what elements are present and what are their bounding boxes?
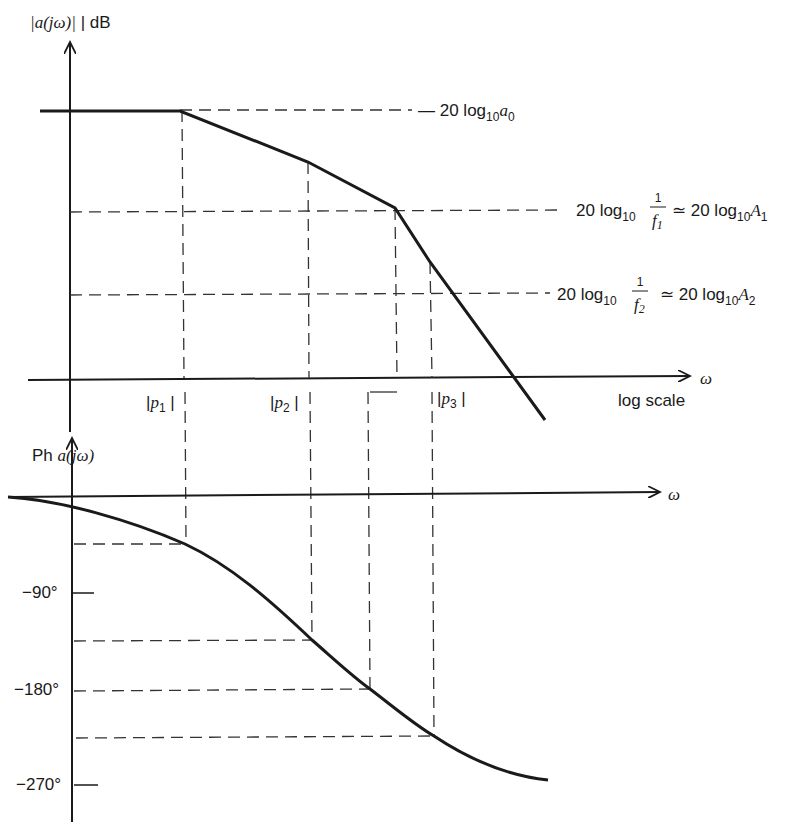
omega-label-phase: ω [668, 485, 680, 504]
log-scale-label: log scale [618, 391, 685, 410]
A2-level-label: 20 log10 1 f2 ≃ 20 log10A2 [557, 275, 756, 316]
svg-text:≃ 20 log10A2: ≃ 20 log10A2 [660, 285, 756, 308]
svg-text:≃ 20 log10A1: ≃ 20 log10A1 [672, 201, 768, 224]
magnitude-curve [40, 111, 545, 420]
svg-text:1: 1 [655, 191, 662, 205]
p2-label: |p2 | [270, 393, 299, 415]
omega-label-magnitude: ω [700, 369, 712, 388]
svg-text:20 log10: 20 log10 [557, 285, 617, 308]
tick-label-minus-180: −180° [14, 680, 59, 699]
A1-level-label: 20 log10 1 f1 ≃ 20 log10A1 [576, 191, 768, 232]
phase-x-axis [8, 492, 660, 497]
phase-y-label: Ph a(jω) [32, 446, 94, 465]
phase-curve [8, 497, 548, 780]
svg-text:f1: f1 [652, 211, 663, 232]
p1-label: |p1 | [146, 393, 175, 415]
svg-text:f2: f2 [634, 295, 645, 316]
tick-label-minus-270: −270° [16, 775, 61, 794]
a0-level-label: — 20 log10a0 [418, 101, 515, 124]
p3-label: |p3 | [437, 389, 466, 411]
phase-plot: Ph a(jω) ω −90° −180° −270° [8, 438, 680, 822]
bode-diagram: |a(jω)| | dB — 20 log10a0 20 log10 1 f1 … [0, 0, 801, 833]
magnitude-x-axis [28, 376, 690, 380]
phase-guides [74, 544, 434, 738]
tick-label-minus-90: −90° [22, 583, 58, 602]
magnitude-plot: |a(jω)| | dB — 20 log10a0 20 log10 1 f1 … [28, 13, 768, 736]
magnitude-y-label: |a(jω)| | dB [30, 13, 111, 32]
svg-text:20 log10: 20 log10 [576, 201, 636, 224]
svg-text:1: 1 [637, 275, 644, 289]
